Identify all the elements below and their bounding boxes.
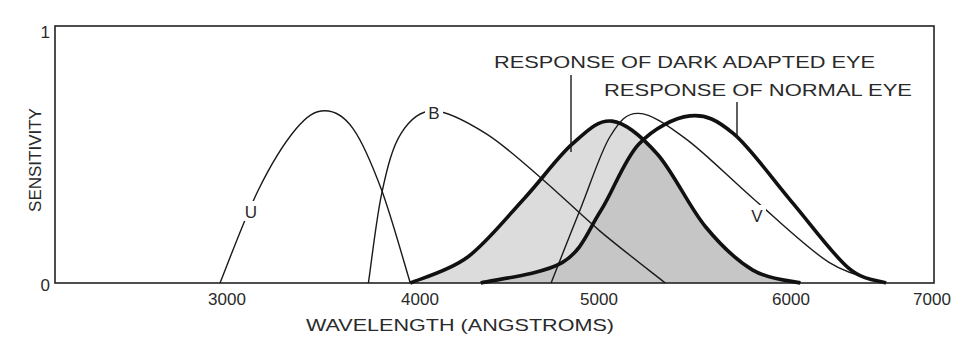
annotation-dark-adapted: RESPONSE OF DARK ADAPTED EYE bbox=[494, 53, 875, 72]
label-v: V bbox=[751, 207, 763, 226]
y-tick-0: 0 bbox=[41, 276, 50, 295]
x-tick-7000: 7000 bbox=[913, 290, 951, 309]
label-b: B bbox=[428, 104, 439, 123]
x-tick-4000: 4000 bbox=[401, 290, 439, 309]
x-tick-3000: 3000 bbox=[208, 290, 246, 309]
annotation-normal-eye: RESPONSE OF NORMAL EYE bbox=[604, 81, 912, 100]
x-axis-label: WAVELENGTH (ANGSTROMS) bbox=[306, 316, 614, 335]
y-axis-label: SENSITIVITY bbox=[26, 108, 45, 212]
x-tick-6000: 6000 bbox=[772, 290, 810, 309]
label-u: U bbox=[245, 203, 257, 222]
curve-u bbox=[220, 111, 410, 283]
x-tick-5000: 5000 bbox=[580, 290, 618, 309]
sensitivity-chart: U B V RESPONSE OF DARK ADAPTED EYE RESPO… bbox=[0, 0, 977, 347]
y-tick-1: 1 bbox=[41, 23, 50, 42]
